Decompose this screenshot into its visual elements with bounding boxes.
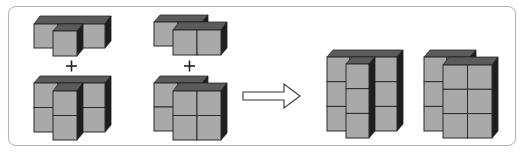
- result-2: [424, 50, 498, 138]
- piece-2-top: [154, 15, 227, 55]
- plus-icon-1: [66, 61, 77, 72]
- right-arrow-icon: [243, 84, 300, 108]
- piece-1-bottom: [34, 76, 111, 140]
- piece-2-bottom: [154, 76, 227, 140]
- result-1: [327, 50, 403, 138]
- plus-icon-2: [184, 61, 195, 72]
- piece-1-top: [34, 16, 111, 56]
- cube-diagram: .f { fill: #a9a9a9; stroke: #2a2a2a; str…: [0, 0, 523, 152]
